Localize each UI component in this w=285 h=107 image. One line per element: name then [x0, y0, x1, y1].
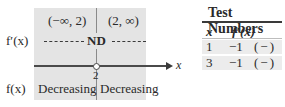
- row-1-value: −1: [229, 39, 243, 55]
- dashed-line-right: [112, 41, 146, 42]
- x-axis: [34, 65, 168, 67]
- not-defined-label: ND: [86, 33, 107, 49]
- behavior-left: Decreasing: [38, 81, 96, 97]
- table-top-rule: [202, 21, 282, 23]
- break-point-label: 2: [93, 69, 99, 81]
- derivative-row-label: f′(x): [6, 33, 28, 49]
- interval-right: (2, ∞): [108, 13, 139, 29]
- behavior-right: Decreasing: [100, 81, 158, 97]
- interval-left: (−∞, 2): [48, 13, 86, 29]
- x-axis-label: x: [176, 58, 181, 73]
- row-1-sign: (−): [254, 39, 276, 55]
- row-2-value: −1: [229, 55, 243, 71]
- row-1-x: 1: [206, 39, 213, 55]
- row-2-sign: (−): [254, 55, 276, 71]
- function-row-label: f(x): [6, 81, 26, 97]
- arrow-right-icon: [166, 62, 173, 70]
- row-2-x: 3: [206, 55, 213, 71]
- dashed-line-left: [44, 41, 84, 42]
